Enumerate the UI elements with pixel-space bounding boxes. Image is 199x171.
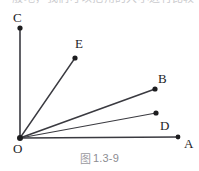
angle-diagram — [0, 0, 199, 171]
point-label-C: C — [13, 11, 22, 24]
point-A — [176, 135, 181, 140]
point-label-E: E — [75, 37, 83, 50]
figure-caption-cjk: 图 — [80, 153, 91, 167]
figure-page: 一般地，我们可以把角的大小进行比较 C E B D A O 图1.3-9 — [0, 0, 199, 171]
ray-OD — [20, 113, 156, 138]
point-label-B: B — [158, 72, 167, 85]
point-D — [153, 110, 158, 115]
figure-caption-number: 1.3-9 — [93, 152, 119, 164]
point-E — [72, 55, 77, 60]
point-label-A: A — [184, 137, 193, 150]
rays-group — [20, 28, 178, 138]
point-C — [17, 25, 22, 30]
figure-caption: 图1.3-9 — [0, 151, 199, 167]
ray-OA — [20, 137, 178, 138]
point-label-D: D — [160, 119, 169, 132]
ray-OE — [20, 58, 75, 138]
ray-OB — [20, 89, 155, 138]
point-B — [152, 86, 157, 91]
